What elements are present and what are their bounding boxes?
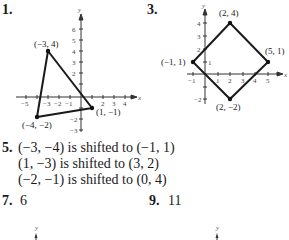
y-axis-arrow-icon (216, 233, 219, 238)
point-label: (2, 4) (219, 8, 239, 18)
y-tick-label: 2 (72, 70, 76, 78)
problem-3-number: 3. (147, 2, 158, 18)
y-tick-label: 6 (72, 26, 76, 34)
graph-problem-3 (187, 9, 283, 104)
problem-7-number: 7. (2, 193, 13, 209)
point-marker (228, 97, 232, 101)
point-label: (5, 1) (265, 46, 285, 56)
point-marker (191, 60, 195, 64)
answer-line: (−3, −4) is shifted to (−1, 1) (18, 140, 175, 156)
graph-problem-1: y x −5 −3 −2 −1 2 3 4 6 5 4 3 2 −2 −3 (−… (0, 0, 289, 240)
x-tick-label: −1 (188, 77, 196, 85)
problem-5-number: 5. (2, 140, 13, 156)
y-axis-label: y (34, 224, 39, 232)
square-shape (193, 23, 268, 99)
point-label: (1, −1) (96, 107, 121, 117)
x-axis-label: x (137, 94, 142, 102)
x-tick-label: −3 (43, 100, 51, 108)
y-tick-label: 3 (72, 59, 76, 67)
y-tick-label: −2 (70, 116, 78, 124)
x-tick-label: −5 (21, 100, 29, 108)
point-label: (−1, 1) (161, 57, 186, 67)
x-axis-arrow-icon (131, 95, 137, 99)
y-axis-label: y (215, 224, 220, 232)
point-marker (266, 60, 270, 64)
y-tick-label: 4 (197, 20, 201, 28)
point-marker (228, 21, 232, 25)
x-tick-label: 4 (123, 100, 127, 108)
x-axis-label: x (283, 71, 288, 79)
point-marker (90, 106, 94, 110)
answer-line: (1, −3) is shifted to (3, 2) (18, 156, 159, 172)
point-label: (−3, 4) (34, 39, 59, 49)
answer-value: 6 (20, 193, 27, 209)
y-tick-label: −2 (194, 96, 202, 104)
answer-line: (−2, −1) is shifted to (0, 4) (18, 172, 167, 188)
y-axis-arrow-icon (79, 14, 83, 20)
y-axis-label: y (77, 6, 82, 14)
y-axis-arrow-icon (35, 233, 38, 238)
answer-value: 11 (168, 193, 181, 209)
point-marker (35, 115, 39, 119)
point-label: (2, −2) (216, 102, 241, 112)
x-tick-label: −1 (65, 100, 73, 108)
y-tick-label: 1 (208, 59, 212, 67)
x-tick-label: 4 (253, 77, 257, 85)
y-tick-label: 3 (197, 33, 201, 41)
point-marker (46, 49, 50, 53)
y-tick-label: −3 (70, 127, 78, 135)
x-axis-arrow-icon (277, 72, 283, 76)
x-tick-label: −2 (54, 100, 62, 108)
x-tick-label: 2 (228, 77, 232, 85)
y-tick-label: 4 (72, 48, 76, 56)
point-label: (−4, −2) (22, 120, 52, 130)
x-tick-label: 1 (216, 77, 220, 85)
y-tick-label: 5 (72, 37, 76, 45)
problem-9-number: 9. (149, 193, 160, 209)
x-tick-label: 5 (266, 77, 270, 85)
